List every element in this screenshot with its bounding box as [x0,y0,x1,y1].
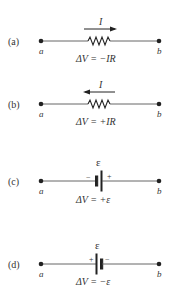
negative-terminal-label: − [105,255,110,264]
emf-label: ε [96,156,101,168]
diagram-d: (d) ε + − a b ΔV = −ε [8,239,162,286]
circuit-diagrams: (a) I a b ΔV = −IR (b) I a b ΔV = +IR (c [0,0,182,286]
positive-terminal-label: + [107,172,112,181]
node-a-label: a [39,186,44,196]
resistor-icon [88,37,110,45]
diagram-a: (a) I a b ΔV = −IR [8,16,162,64]
current-arrow-right-icon [84,27,117,32]
diagram-c: (c) ε − + a b ΔV = +ε [8,156,162,205]
part-label-b: (b) [8,99,20,111]
battery-icon [96,254,103,274]
delta-v-equation: ΔV = +ε [75,194,110,205]
node-b-dot [157,39,162,44]
node-a-dot [39,262,44,267]
emf-label: ε [95,239,100,251]
node-a-label: a [39,109,44,119]
part-label-d: (d) [8,259,20,271]
resistor-icon [88,100,110,108]
delta-v-equation: ΔV = −IR [75,53,116,64]
node-a-dot [39,102,44,107]
current-label: I [98,16,103,27]
part-label-c: (c) [8,176,19,188]
node-b-label: b [157,186,162,196]
delta-v-equation: ΔV = +IR [75,116,116,127]
current-arrow-left-icon [83,90,115,95]
part-label-a: (a) [8,36,19,48]
node-a-dot [39,39,44,44]
negative-terminal-label: − [86,173,91,182]
node-b-label: b [157,269,162,279]
node-a-label: a [39,46,44,56]
diagram-b: (b) I a b ΔV = +IR [8,79,162,127]
positive-terminal-label: + [89,255,94,264]
node-b-dot [157,262,162,267]
delta-v-equation: ΔV = −ε [75,276,110,286]
current-label: I [98,79,103,90]
node-b-label: b [157,109,162,119]
battery-icon [96,171,103,191]
node-b-dot [157,102,162,107]
node-b-label: b [157,46,162,56]
node-a-dot [39,179,44,184]
node-a-label: a [39,269,44,279]
node-b-dot [157,179,162,184]
